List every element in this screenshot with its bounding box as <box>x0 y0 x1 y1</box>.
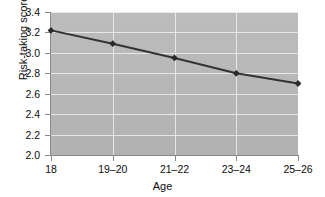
x-axis-tick-mark <box>113 156 114 161</box>
x-axis-tick-mark <box>298 156 299 161</box>
y-axis-tick-label: 2.2 <box>25 129 40 141</box>
y-axis-tick-label: 2.6 <box>25 88 40 100</box>
y-axis-tick-label: 2.8 <box>25 67 40 79</box>
data-point-marker <box>295 80 302 87</box>
x-axis-tick-mark <box>236 156 237 161</box>
y-axis-tick-label: 2.4 <box>25 108 40 120</box>
y-axis-tick-labels: 2.02.22.42.62.83.03.23.4 <box>0 0 48 197</box>
x-axis-tick-label: 23–24 <box>222 163 251 176</box>
x-axis-tick-label: 18 <box>45 163 57 176</box>
data-point-marker <box>171 55 178 62</box>
x-axis-tick-label: 25–26 <box>283 163 312 176</box>
y-axis-tick-label: 2.0 <box>25 149 40 161</box>
x-axis-tick-label: 21–22 <box>160 163 189 176</box>
data-point-marker <box>109 40 116 47</box>
y-axis-tick-label: 3.0 <box>25 47 40 59</box>
data-point-marker <box>233 70 240 77</box>
y-axis-tick-label: 3.2 <box>25 26 40 38</box>
x-axis-tick-label: 19–20 <box>98 163 127 176</box>
x-axis-title: Age <box>0 180 325 192</box>
y-axis-tick-label: 3.4 <box>25 6 40 18</box>
risk-taking-score-line-chart: Risk-taking score 2.02.22.42.62.83.03.23… <box>0 0 325 197</box>
x-axis-tick-mark <box>175 156 176 161</box>
data-series-layer <box>51 12 298 155</box>
x-axis-tick-mark <box>51 156 52 161</box>
